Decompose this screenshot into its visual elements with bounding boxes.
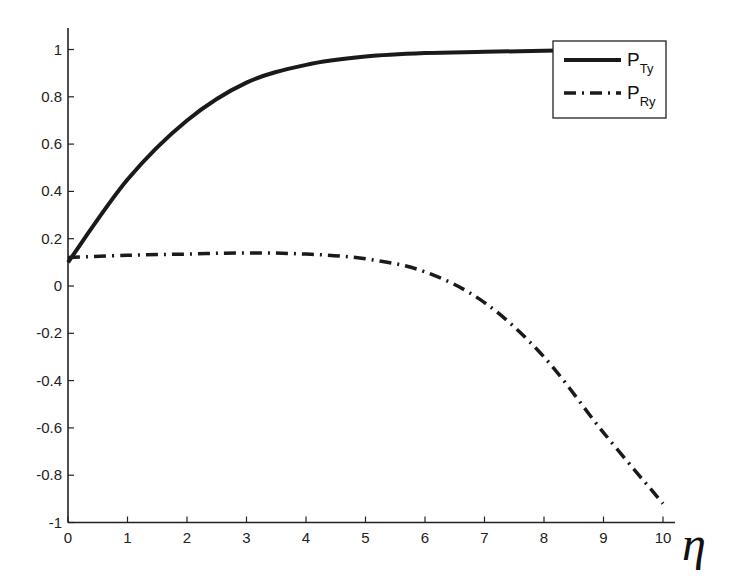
series-p-ry [68, 253, 663, 504]
x-tick-label: 9 [599, 529, 607, 546]
y-tick-label: 0.2 [41, 230, 62, 247]
x-axis-label: η [682, 517, 706, 570]
y-tick-label: -0.4 [36, 372, 62, 389]
y-tick-label: 0.4 [41, 182, 62, 199]
legend: PTyPRy [553, 41, 666, 118]
x-tick-label: 8 [540, 529, 548, 546]
y-tick-label: -0.6 [36, 419, 62, 436]
y-tick-label: -0.2 [36, 324, 62, 341]
x-tick-label: 4 [302, 529, 310, 546]
y-tick-label: 0 [54, 277, 62, 294]
x-tick-label: 1 [123, 529, 131, 546]
x-tick-label: 10 [655, 529, 672, 546]
x-tick-label: 5 [361, 529, 369, 546]
y-tick-label: 0.6 [41, 135, 62, 152]
x-tick-label: 6 [421, 529, 429, 546]
x-tick-label: 0 [64, 529, 72, 546]
x-tick-label: 3 [242, 529, 250, 546]
y-tick-label: 0.8 [41, 88, 62, 105]
y-tick-label: -0.8 [36, 466, 62, 483]
line-chart: 10.80.60.40.20-0.2-0.4-0.6-0.8-101234567… [0, 0, 735, 581]
y-tick-label: 1 [54, 41, 62, 58]
x-tick-label: 2 [183, 529, 191, 546]
x-tick-label: 7 [480, 529, 488, 546]
y-tick-label: -1 [49, 514, 62, 531]
